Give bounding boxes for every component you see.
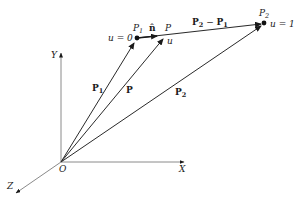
point-p2-label: P2 [258, 8, 269, 20]
vector-p1 [61, 43, 134, 162]
unit-n-label: n̂ [149, 23, 156, 33]
vector-p-label: P [126, 85, 133, 95]
diagram-canvas: Y X Z O P1 u = 0 P u P2 u = 1 n̂ P2 − P1… [0, 0, 306, 204]
point-p-label: P [164, 23, 172, 33]
origin-label: O [59, 164, 67, 174]
z-axis [16, 162, 61, 193]
param-u-label: u [167, 36, 173, 46]
vector-p1-label: P1 [92, 83, 103, 95]
vector-p [61, 39, 163, 162]
point-p2-dot [262, 21, 267, 26]
vector-p2 [61, 26, 261, 162]
z-axis-label: Z [6, 181, 14, 191]
y-axis-label: Y [51, 50, 58, 60]
point-p1-dot [135, 36, 140, 41]
point-p1-label: P1 [132, 23, 143, 35]
vector-p2-label: P2 [175, 87, 186, 99]
diff-vector-label: P2 − P1 [192, 17, 228, 29]
param-u0-label: u = 0 [108, 33, 133, 43]
unit-vector-n [137, 36, 157, 38]
x-axis-label: X [178, 164, 186, 174]
param-u1-label: u = 1 [270, 19, 295, 29]
